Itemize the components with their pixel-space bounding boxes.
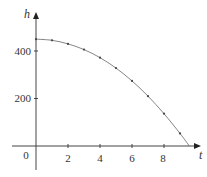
ticks bbox=[34, 51, 164, 148]
height-vs-time-chart: 0 2 4 6 8 400 200 t h bbox=[0, 0, 207, 177]
origin-label: 0 bbox=[23, 149, 29, 161]
data-point-marker bbox=[83, 48, 85, 50]
tick-labels: 0 2 4 6 8 400 200 t h bbox=[15, 7, 204, 164]
x-tick-label-8: 8 bbox=[160, 152, 166, 164]
data-point-marker bbox=[35, 38, 37, 40]
data-point-marker bbox=[163, 113, 165, 115]
y-tick-label-200: 200 bbox=[15, 92, 32, 104]
data-point-marker bbox=[115, 67, 117, 69]
data-markers bbox=[35, 38, 181, 134]
data-point-marker bbox=[179, 132, 181, 134]
data-point-marker bbox=[147, 95, 149, 97]
y-tick-label-400: 400 bbox=[15, 45, 32, 57]
data-point-marker bbox=[99, 57, 101, 59]
y-axis-arrow-icon bbox=[33, 12, 39, 19]
y-axis-label: h bbox=[24, 7, 30, 21]
data-point-marker bbox=[67, 43, 69, 45]
x-tick-label-6: 6 bbox=[129, 152, 135, 164]
x-tick-label-2: 2 bbox=[65, 152, 71, 164]
x-axis-label: t bbox=[199, 148, 203, 162]
data-point-marker bbox=[51, 39, 53, 41]
data-point-marker bbox=[131, 80, 133, 82]
data-curve bbox=[36, 39, 189, 146]
x-tick-label-4: 4 bbox=[97, 152, 103, 164]
axes bbox=[12, 12, 201, 170]
